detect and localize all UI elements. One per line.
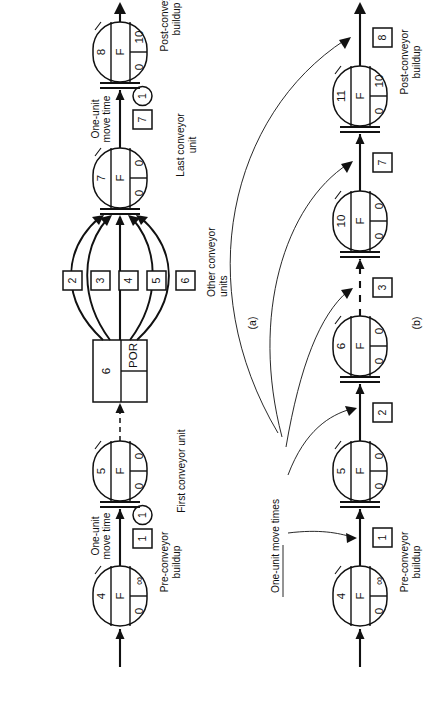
last-conveyor-unit-label-a-l1: Last conveyor: [175, 113, 186, 177]
queue-node-5-b-top: 5: [335, 468, 347, 474]
activity-circle-1-a-label: 1: [136, 512, 148, 518]
panel-b: 0 ∞ F 4 Pre-conveyor buildup 1: [230, 2, 422, 667]
one-unit-move-times-label-b: One-unit move times: [270, 499, 281, 593]
figure-svg: 0 ∞ F 4 Pre-conveyor buildup One-unit mo…: [0, 0, 427, 705]
queue-node-4-b-left: 0: [373, 608, 385, 614]
queue-node-5-b-mid: F: [354, 467, 366, 474]
activity-square-3-a-label: 3: [94, 277, 106, 283]
queue-node-8-top: 8: [95, 49, 107, 55]
exit-arrowhead-a: [114, 2, 126, 14]
queue-node-7-right: 0: [133, 160, 145, 166]
queue-node-4-right: ∞: [133, 577, 145, 585]
gate-before-node-10-b: [340, 252, 380, 257]
queue-node-8-a: 0 10 F 8: [93, 22, 147, 82]
queue-node-4-mid: F: [114, 592, 126, 599]
queue-node-5-b-right: 0: [373, 453, 385, 459]
entry-arrowhead-b: [356, 629, 365, 639]
arrowhead-a-5-to-6: [116, 403, 125, 413]
pre-conveyor-buildup-label-a-l2: buildup: [171, 545, 182, 578]
select-node-6-rule: POR: [127, 343, 139, 368]
queue-node-10-b-right: 0: [373, 203, 385, 209]
queue-node-6-b-right: 0: [373, 328, 385, 334]
queue-node-11-b-top: 11: [335, 90, 347, 102]
activity-square-2-a-label: 2: [66, 277, 78, 283]
queue-node-4-b: 0 ∞ F 4: [333, 566, 387, 626]
one-unit-move-time-label-a-l1: One-unit: [90, 516, 101, 555]
one-unit-move-time-label-a2-l1: One-unit: [90, 99, 101, 138]
one-unit-move-time-label-a-l2: move time: [101, 512, 112, 559]
queue-node-4-left: 0: [133, 608, 145, 614]
pre-conveyor-buildup-label-b-l1: Pre-conveyor: [399, 531, 410, 592]
queue-node-10-b-left: 0: [373, 233, 385, 239]
queue-node-7-left: 0: [133, 190, 145, 196]
gate-before-node-11-b: [340, 127, 380, 132]
entry-arrowhead-a: [116, 629, 125, 639]
last-conveyor-unit-label-a-l2: unit: [187, 137, 198, 154]
activity-square-7-b-label: 7: [376, 159, 388, 165]
panel-a: 0 ∞ F 4 Pre-conveyor buildup One-unit mo…: [63, 0, 258, 667]
gate-before-node-5-a: [100, 502, 140, 507]
gate-before-node-5-b: [340, 502, 380, 507]
queue-node-6-b: 0 0 F 6: [333, 316, 387, 376]
arrowhead-b-5-to-6: [356, 384, 365, 394]
queue-node-11-b-mid: F: [354, 92, 366, 99]
queue-node-10-b: 0 0 F 10: [333, 191, 387, 251]
queue-node-5-b-left: 0: [373, 483, 385, 489]
arrowhead-a-4-to-5: [116, 509, 125, 519]
pre-conveyor-buildup-label-b-l2: buildup: [411, 545, 422, 578]
queue-node-5-left: 0: [133, 483, 145, 489]
queue-node-5-mid: F: [114, 467, 126, 474]
queue-node-10-b-top: 10: [335, 215, 347, 228]
rotated-figure-canvas: 0 ∞ F 4 Pre-conveyor buildup One-unit mo…: [0, 0, 427, 705]
queue-node-8-right: 10: [133, 31, 145, 44]
exit-arrowhead-b: [354, 2, 366, 14]
gate-before-node-6-b: [340, 377, 380, 382]
activity-square-4-a-label: 4: [122, 277, 134, 283]
queue-node-11-b-right: 10: [373, 75, 385, 88]
queue-node-11-b-left: 0: [373, 108, 385, 114]
select-node-6-top: 6: [100, 368, 112, 374]
post-conveyor-buildup-label-b-l2: buildup: [411, 45, 422, 78]
activity-square-6-a-label: 6: [179, 277, 191, 283]
figure-page: 0 ∞ F 4 Pre-conveyor buildup One-unit mo…: [0, 0, 427, 705]
activity-square-5-a-label: 5: [150, 277, 162, 283]
arrowhead-b-4-to-5: [356, 509, 365, 519]
queue-node-4-b-top: 4: [335, 592, 347, 599]
activity-square-1-b-label: 1: [376, 534, 388, 540]
gate-before-node-8-a: [100, 83, 140, 88]
queue-node-6-b-top: 6: [335, 343, 347, 349]
post-conveyor-buildup-label-a-l2: buildup: [171, 2, 182, 35]
queue-node-4-top: 4: [95, 592, 107, 599]
queue-node-5-b: 0 0 F 5: [333, 441, 387, 501]
activity-circle-2-a-label: 1: [136, 93, 148, 99]
queue-node-5-a: 0 0 F 5: [93, 441, 147, 501]
pre-conveyor-buildup-label-a-l1: Pre-conveyor: [159, 531, 170, 592]
post-conveyor-buildup-label-a-l1: Post-conveyor: [159, 0, 170, 52]
queue-node-4-b-right: ∞: [373, 577, 385, 585]
arrowhead-b-10-to-11: [356, 134, 365, 144]
queue-node-5-right: 0: [133, 453, 145, 459]
activity-square-8-b-label: 8: [376, 34, 388, 40]
activity-square-1-a-label: 1: [136, 535, 148, 541]
queue-node-5-top: 5: [95, 468, 107, 474]
queue-node-10-b-mid: F: [354, 217, 366, 224]
arrowhead-a-7-to-8: [116, 90, 125, 100]
other-conveyor-units-label-a-l2: units: [218, 275, 229, 297]
arrowhead-b-6-to-10: [356, 259, 365, 269]
queue-node-7-mid: F: [114, 174, 126, 181]
queue-node-4-a: 0 ∞ F 4: [93, 566, 147, 626]
other-conveyor-units-label-a-l1: Other conveyor: [206, 227, 217, 297]
queue-node-4-b-mid: F: [354, 592, 366, 599]
panel-caption-b: (b): [410, 317, 422, 330]
queue-node-6-b-mid: F: [354, 342, 366, 349]
activity-square-2-b-label: 2: [376, 409, 388, 415]
queue-node-6-b-left: 0: [373, 358, 385, 364]
panel-caption-a: (a): [246, 317, 258, 330]
queue-node-8-mid: F: [114, 48, 126, 55]
activity-square-7-a-label: 7: [136, 116, 148, 122]
queue-node-7-top: 7: [95, 175, 107, 181]
one-unit-move-time-label-a2-l2: move time: [101, 95, 112, 142]
gate-before-node-7-a: [100, 209, 140, 214]
post-conveyor-buildup-label-b-l1: Post-conveyor: [399, 29, 410, 95]
first-conveyor-unit-label-a: First conveyor unit: [176, 429, 187, 512]
